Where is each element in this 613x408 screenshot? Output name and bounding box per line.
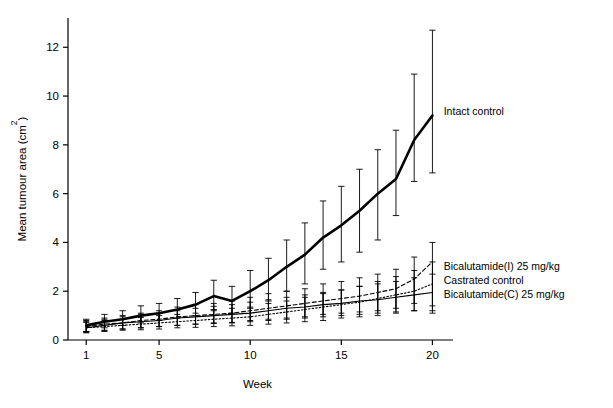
x-tick-label: 1 bbox=[83, 349, 89, 361]
y-tick-label: 2 bbox=[53, 285, 59, 297]
y-tick-label: 10 bbox=[46, 90, 59, 102]
x-tick-label: 10 bbox=[244, 349, 257, 361]
y-tick-label: 6 bbox=[53, 188, 59, 200]
x-tick-label: 20 bbox=[426, 349, 439, 361]
x-tick-label: 5 bbox=[156, 349, 162, 361]
y-tick-label: 8 bbox=[53, 139, 59, 151]
series-label-1: Intact control bbox=[444, 105, 504, 117]
x-axis-title: Week bbox=[243, 378, 272, 390]
chart-container: 02468101215101520WeekMean tumour area (c… bbox=[0, 0, 613, 408]
y-tick-label: 4 bbox=[53, 236, 60, 248]
series-label-4: Bicalutamide(C) 25 mg/kg bbox=[444, 288, 565, 300]
y-axis-title: Mean tumour area (cm2) bbox=[9, 116, 28, 241]
series-label-2: Bicalutamide(I) 25 mg/kg bbox=[444, 260, 560, 272]
y-tick-group: 024681012 bbox=[46, 41, 68, 346]
x-tick-label: 15 bbox=[335, 349, 348, 361]
series-labels: Intact controlBicalutamide(I) 25 mg/kgCa… bbox=[444, 105, 565, 300]
error-bars bbox=[83, 274, 435, 333]
x-tick-group: 15101520 bbox=[83, 340, 439, 361]
series-label-3: Castrated control bbox=[444, 274, 524, 286]
tumour-growth-line-chart: 02468101215101520WeekMean tumour area (c… bbox=[0, 0, 613, 408]
y-tick-label: 0 bbox=[53, 334, 59, 346]
y-tick-label: 12 bbox=[46, 41, 59, 53]
series-line bbox=[86, 116, 432, 326]
series-1 bbox=[83, 30, 436, 331]
series-4 bbox=[83, 274, 435, 333]
